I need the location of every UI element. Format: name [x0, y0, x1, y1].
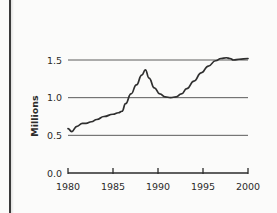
- y-axis-title: Millions: [29, 95, 40, 137]
- page-edge-shadow: [11, 0, 14, 213]
- y-tick-label-group: 0.00.51.01.5: [47, 55, 62, 179]
- data-series-line: [68, 58, 248, 132]
- chart-page: 0.00.51.01.5 19801985199019952000 Millio…: [0, 0, 277, 213]
- x-tick-label: 1980: [56, 181, 80, 192]
- y-tick-label: 1.0: [47, 92, 62, 103]
- page-edge-rule: [9, 0, 11, 213]
- x-tick-label: 1985: [101, 181, 125, 192]
- x-tick-label-group: 19801985199019952000: [56, 181, 260, 192]
- gridline-group: [68, 60, 248, 135]
- y-tick-label: 1.5: [47, 55, 62, 66]
- y-tick-label: 0.5: [47, 130, 62, 141]
- x-tick-label: 1990: [146, 181, 170, 192]
- x-tick-label: 1995: [191, 181, 215, 192]
- y-tick-label: 0.0: [47, 168, 62, 179]
- line-chart: 0.00.51.01.5 19801985199019952000 Millio…: [0, 0, 277, 213]
- x-tick-label: 2000: [236, 181, 260, 192]
